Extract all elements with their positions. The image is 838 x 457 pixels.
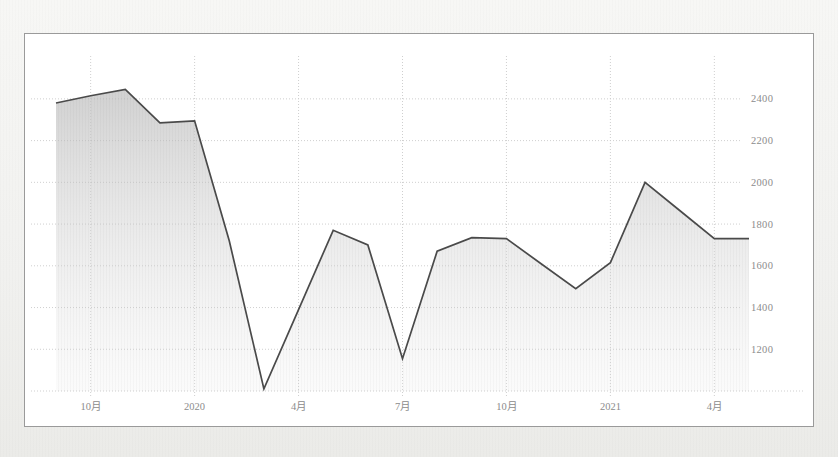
x-tick-label: 2020 (184, 401, 205, 412)
y-tick-label: 2400 (751, 93, 773, 104)
line-area-chart: 1200140016001800200022002400 10月20204月7月… (25, 34, 813, 426)
x-axis-tick-labels: 10月20204月7月10月20214月 (80, 401, 722, 412)
x-tick-label: 10月 (496, 401, 517, 412)
y-axis-tick-labels: 1200140016001800200022002400 (751, 93, 773, 354)
x-tick-label: 4月 (291, 401, 306, 412)
y-tick-label: 2000 (751, 177, 773, 188)
x-tick-label: 4月 (707, 401, 722, 412)
x-tick-label: 7月 (395, 401, 410, 412)
x-tick-label: 2021 (600, 401, 621, 412)
y-tick-label: 1600 (751, 260, 773, 271)
y-tick-label: 1400 (751, 302, 773, 313)
x-tick-label: 10月 (80, 401, 101, 412)
chart-panel: 1200140016001800200022002400 10月20204月7月… (24, 33, 814, 427)
plot-area: 1200140016001800200022002400 10月20204月7月… (25, 34, 813, 426)
y-tick-label: 1200 (751, 344, 773, 355)
y-tick-label: 1800 (751, 219, 773, 230)
y-tick-label: 2200 (751, 135, 773, 146)
